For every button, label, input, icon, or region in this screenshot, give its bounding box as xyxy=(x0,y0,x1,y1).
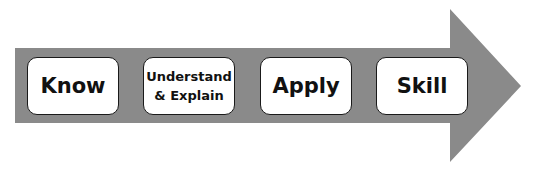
stage-skill: Skill xyxy=(376,57,468,115)
stage-understand-explain: Understand & Explain xyxy=(143,57,235,115)
stage-know: Know xyxy=(27,57,119,115)
stage-apply: Apply xyxy=(260,57,352,115)
